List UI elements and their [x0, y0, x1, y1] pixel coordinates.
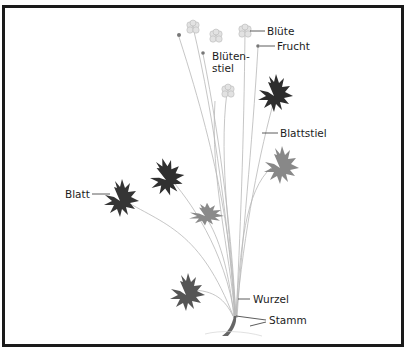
label-stamm: Stamm: [269, 314, 307, 326]
label-bluetenstiel-1: Blüten-: [212, 50, 250, 62]
label-bluete: Blüte: [267, 25, 294, 37]
label-bluetenstiel-2: stiel: [212, 62, 234, 74]
plant-illustration: [0, 0, 408, 352]
leaves: [104, 74, 299, 311]
stems: [120, 27, 275, 318]
label-wurzel: Wurzel: [253, 293, 289, 305]
label-frucht: Frucht: [277, 40, 310, 52]
root: [205, 316, 262, 336]
label-blatt: Blatt: [65, 188, 90, 200]
label-blattstiel: Blattstiel: [280, 127, 327, 139]
